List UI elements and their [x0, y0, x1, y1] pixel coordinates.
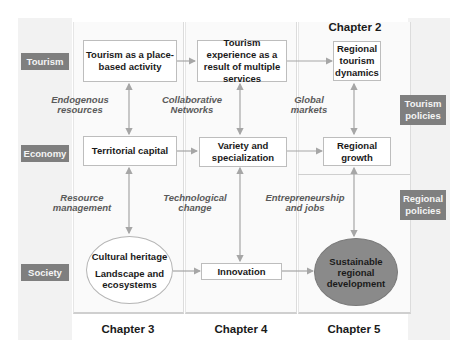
tourism-policies-label: Tourism policies [400, 95, 446, 125]
cultural-heritage-text: Cultural heritage [92, 251, 168, 262]
link-endogenous-resources: Endogenous resources [50, 95, 110, 115]
node-regional-growth: Regional growth [323, 137, 391, 166]
link-entrepreneurship-jobs: Entrepreneurship and jobs [265, 193, 345, 213]
node-place-based-activity: Tourism as a place-based activity [83, 40, 177, 82]
node-cultural-heritage-ellipse: Cultural heritage Landscape and ecosyste… [86, 236, 173, 304]
sustainable-text: Sustainable regional development [325, 256, 387, 289]
row-label-society: Society [21, 264, 69, 281]
node-innovation: Innovation [201, 263, 282, 280]
link-technological-change: Technological change [160, 193, 230, 213]
chapter-4-label: Chapter 4 [186, 323, 296, 335]
node-regional-tourism-dynamics: Regional tourism dynamics [333, 41, 381, 81]
node-sustainable-development: Sustainable regional development [314, 238, 398, 306]
link-collaborative-networks: Collaborative Networks [160, 95, 224, 115]
chapter-3-label: Chapter 3 [73, 323, 183, 335]
row-label-economy: Economy [21, 145, 69, 162]
link-global-markets: Global markets [289, 95, 329, 115]
regional-policies-label: Regional policies [400, 190, 446, 220]
row-label-tourism: Tourism [21, 53, 69, 70]
node-variety-specialization: Variety and specialization [199, 137, 287, 167]
chapter-5-label: Chapter 5 [299, 323, 409, 335]
link-resource-management: Resource management [50, 193, 114, 213]
chapter-2-label: Chapter 2 [300, 21, 410, 33]
node-territorial-capital: Territorial capital [83, 136, 177, 166]
node-tourism-experience: Tourism experience as a result of multip… [197, 40, 287, 82]
landscape-text: Landscape and ecosystems [95, 268, 165, 290]
